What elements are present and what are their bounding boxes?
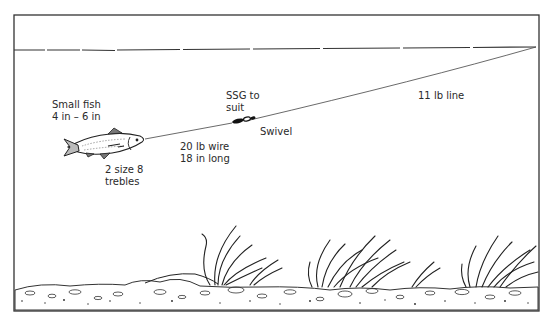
weight-label: SSG to suit [226, 90, 260, 114]
main-line-label: 11 lb line [418, 90, 464, 102]
trace-label: 20 lb wire 18 in long [180, 141, 230, 165]
trace-label-line2: 18 in long [180, 153, 230, 165]
hooks-label: 2 size 8 trebles [105, 164, 143, 188]
fishing-rig-diagram: Small fish 4 in – 6 in 2 size 8 trebles … [0, 0, 553, 325]
main-line-label-line1: 11 lb line [418, 90, 464, 102]
hooks-label-line2: trebles [105, 176, 143, 188]
swivel-label: Swivel [260, 126, 292, 138]
weight-label-line2: suit [226, 102, 260, 114]
bait-label-line1: Small fish [52, 99, 101, 111]
diagram-illustration [0, 0, 553, 325]
diagram-frame [14, 15, 539, 311]
trace-label-line1: 20 lb wire [180, 141, 230, 153]
bait-label-line2: 4 in – 6 in [52, 111, 101, 123]
hooks-label-line1: 2 size 8 [105, 164, 143, 176]
bait-label: Small fish 4 in – 6 in [52, 99, 101, 123]
weight-label-line1: SSG to [226, 90, 260, 102]
swivel-label-line1: Swivel [260, 126, 292, 138]
